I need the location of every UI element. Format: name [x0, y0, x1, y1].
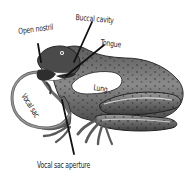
label-vocal-sac-aperture: Vocal sac aperture: [37, 161, 90, 170]
frog-anatomy-diagram: Open nostril Buccal cavity Tongue Lung V…: [0, 0, 192, 179]
